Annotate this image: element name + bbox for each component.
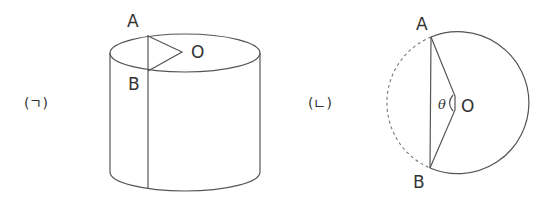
label-B: B: [128, 74, 140, 94]
figure-cylinder: (ㄱ) A O B: [24, 11, 260, 191]
cylinder-bottom-arc: [110, 172, 260, 191]
circle-minor-arc-dashed: [387, 37, 431, 168]
caption-figure-a: (ㄱ): [24, 95, 48, 111]
diagram-canvas: (ㄱ) A O B (ㄴ) A θ O B: [0, 0, 546, 205]
label-theta: θ: [438, 97, 446, 112]
label-B: B: [413, 172, 425, 192]
label-O: O: [461, 96, 474, 116]
chord-AB: [430, 37, 431, 168]
caption-figure-b: (ㄴ): [308, 95, 332, 111]
label-A: A: [416, 14, 428, 34]
triangle-AOB: [148, 36, 182, 71]
angle-mark: [450, 95, 454, 111]
label-A: A: [127, 11, 139, 31]
label-O: O: [191, 42, 204, 62]
figure-circle: (ㄴ) A θ O B: [308, 14, 529, 192]
cylinder-top-ellipse: [110, 34, 260, 72]
